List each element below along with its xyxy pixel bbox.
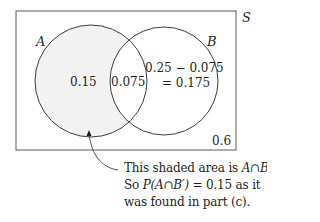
set-a-label: A bbox=[35, 34, 45, 49]
intersection-value: 0.075 bbox=[111, 75, 145, 89]
b-only-value-line2: = 0.175 bbox=[162, 76, 210, 90]
a-only-value: 0.15 bbox=[70, 75, 97, 89]
annotation-line-2: So P(A∩B′) = 0.15 as it bbox=[124, 177, 267, 194]
b-only-value-line1: 0.25 − 0.075 bbox=[145, 61, 224, 75]
universe-label: S bbox=[242, 10, 251, 25]
a-intersect-b-complement: A∩B′ bbox=[242, 161, 267, 175]
outside-value: 0.6 bbox=[212, 134, 231, 148]
annotation-text: This shaded area is A∩B′. So P(A∩B′) = 0… bbox=[124, 160, 267, 211]
set-b-label: B bbox=[206, 34, 217, 49]
annotation-line-1: This shaded area is A∩B′. bbox=[124, 160, 267, 177]
probability-expression: P(A∩B′) bbox=[143, 178, 189, 192]
annotation-line-3: was found in part (c). bbox=[124, 194, 267, 211]
